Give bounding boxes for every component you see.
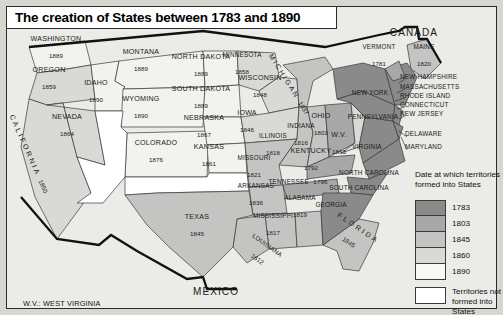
legend-row-1845: 1845 <box>415 232 503 248</box>
state-shape-montana <box>115 51 205 89</box>
legend-swatch-1803 <box>415 216 446 232</box>
legend-swatch-1860 <box>415 248 446 264</box>
state-shape-south-dakota <box>203 85 241 117</box>
state-shape-louisiana <box>233 215 269 263</box>
state-shape-arkansas <box>249 185 287 215</box>
legend-label-1803: 1803 <box>452 219 470 228</box>
state-shape-texas <box>125 191 253 277</box>
legend-row-1890: 1890 <box>415 264 503 280</box>
state-shape-colorado <box>125 131 209 177</box>
legend-row-1783: 1783 <box>415 200 503 216</box>
legend-label-1783: 1783 <box>452 203 470 212</box>
state-shape-nebraska <box>203 117 245 145</box>
legend-heading: Date at which territories formed into St… <box>415 170 503 191</box>
legend-swatch-1845 <box>415 232 446 248</box>
state-shape-kansas <box>207 143 247 173</box>
page-title: The creation of States between 1783 and … <box>7 10 300 25</box>
legend-label-1890: 1890 <box>452 267 470 276</box>
map-frame: CANADA MEXICO WASHINGTON1889 OREGON1859 … <box>6 6 497 309</box>
state-shape-wyoming <box>121 87 205 127</box>
legend-swatch-1783 <box>415 200 446 216</box>
map-legend: Date at which territories formed into St… <box>415 170 503 315</box>
map-figure: CANADA MEXICO WASHINGTON1889 OREGON1859 … <box>0 0 503 315</box>
state-shape-alabama <box>295 211 323 247</box>
legend-row-1860: 1860 <box>415 248 503 264</box>
legend-swatch-1890 <box>415 264 446 280</box>
legend-label-1845: 1845 <box>452 235 470 244</box>
title-bar: The creation of States between 1783 and … <box>7 7 337 29</box>
legend-row-1803: 1803 <box>415 216 503 232</box>
legend-swatch-territories <box>415 287 446 304</box>
legend-row-territories: Territories not formed into States <box>415 287 503 315</box>
state-shape-north-dakota <box>203 51 239 87</box>
map-footnote: W.V.: WEST VIRGINIA <box>23 299 101 308</box>
legend-label-territories: Territories not formed into States <box>452 287 503 315</box>
state-shape-mississippi <box>265 213 297 249</box>
legend-label-1860: 1860 <box>452 251 470 260</box>
